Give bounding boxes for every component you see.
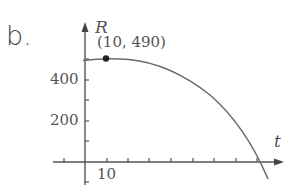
max-point-annotation: (10, 490) — [97, 33, 166, 51]
y-axis-arrow-icon — [82, 22, 89, 32]
curve-line — [83, 59, 268, 179]
x-axis-label: t — [274, 131, 281, 151]
plot-area — [0, 0, 289, 196]
y-tick-label-200: 200 — [50, 111, 79, 129]
y-tick-label-400: 400 — [50, 70, 79, 88]
max-point-marker — [103, 55, 109, 61]
x-axis-arrow-icon — [274, 159, 284, 166]
x-tick-label-10: 10 — [97, 165, 116, 183]
